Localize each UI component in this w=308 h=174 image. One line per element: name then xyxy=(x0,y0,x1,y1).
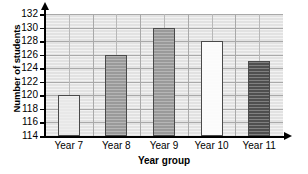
bar-chart: Number of students 132130128126124122120… xyxy=(0,0,308,174)
x-axis-title: Year group xyxy=(45,155,283,166)
x-axis-tick-label: Year 8 xyxy=(93,139,141,152)
y-axis-tick-mark xyxy=(40,82,45,84)
bar-hatch xyxy=(202,42,222,135)
y-axis-tick-mark xyxy=(40,55,45,57)
y-axis-tick-label: 126 xyxy=(8,50,38,60)
bar xyxy=(201,41,223,136)
y-axis-tick-label: 130 xyxy=(8,23,38,33)
y-axis-tick-mark xyxy=(40,28,45,30)
y-axis-tick-label: 128 xyxy=(8,36,38,46)
y-axis-tick-label: 114 xyxy=(8,131,38,141)
y-axis-tick-label: 116 xyxy=(8,117,38,127)
bar xyxy=(105,55,127,136)
x-axis-arrow-icon xyxy=(284,132,292,140)
y-axis-tick-label: 132 xyxy=(8,9,38,19)
bar-hatch xyxy=(59,96,79,135)
y-axis-tick-label: 120 xyxy=(8,90,38,100)
x-axis-tick-label: Year 10 xyxy=(188,139,236,152)
bar-hatch xyxy=(154,29,174,135)
gridline-vertical xyxy=(235,14,236,136)
x-axis-tick-labels: Year 7Year 8Year 9Year 10Year 11 xyxy=(45,139,283,153)
y-axis-arrow-icon xyxy=(41,2,49,10)
y-axis-tick-mark xyxy=(40,122,45,124)
y-axis-tick-label: 122 xyxy=(8,77,38,87)
gridline-vertical xyxy=(93,14,94,136)
x-axis-tick-label: Year 9 xyxy=(140,139,188,152)
y-axis-tick-mark xyxy=(40,41,45,43)
bar-hatch xyxy=(249,62,269,135)
y-axis-tick-mark xyxy=(40,14,45,16)
y-axis-tick-mark xyxy=(40,68,45,70)
y-axis-tick-label: 118 xyxy=(8,104,38,114)
y-axis-tick-mark xyxy=(40,95,45,97)
bar xyxy=(153,28,175,136)
bar xyxy=(58,95,80,136)
y-axis-tick-label: 124 xyxy=(8,63,38,73)
bar xyxy=(248,61,270,136)
x-axis-tick-label: Year 11 xyxy=(235,139,283,152)
x-axis-line xyxy=(45,136,285,138)
gridline-vertical xyxy=(140,14,141,136)
plot-area xyxy=(45,14,283,136)
y-axis-tick-mark xyxy=(40,109,45,111)
x-axis-tick-label: Year 7 xyxy=(45,139,93,152)
gridline-vertical xyxy=(188,14,189,136)
bar-hatch xyxy=(106,56,126,135)
y-axis-tick-labels: 132130128126124122120118116114 xyxy=(8,9,38,137)
